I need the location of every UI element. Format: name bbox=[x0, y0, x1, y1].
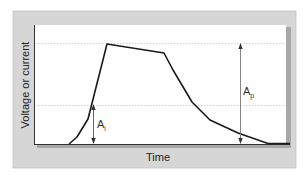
waveform-diagram: Ai Ap Voltage or current Time bbox=[0, 0, 307, 180]
y-axis-label: Voltage or current bbox=[19, 42, 31, 129]
x-axis-label: Time bbox=[146, 151, 170, 163]
